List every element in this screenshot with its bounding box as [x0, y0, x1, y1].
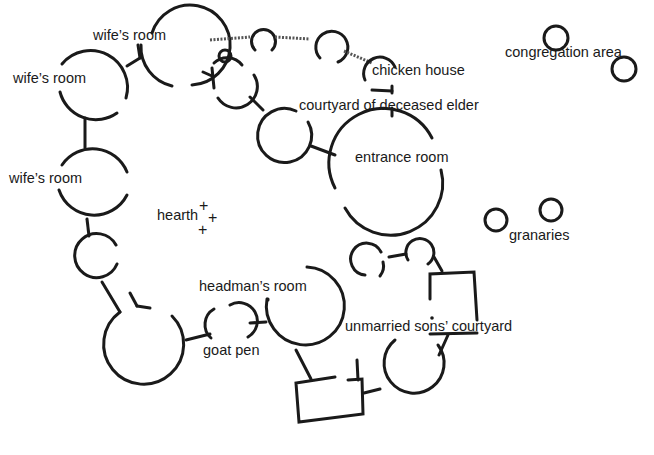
label-headmans-room: headman’s room — [199, 278, 307, 294]
label-unmarried-sons-courtyard: unmarried sons’ courtyard — [345, 318, 512, 334]
hearth-markers: + + + — [198, 197, 217, 238]
svg-text:+: + — [208, 209, 217, 226]
label-hearth: hearth — [157, 207, 198, 223]
label-entrance-room: entrance room — [355, 149, 449, 165]
label-wife-room-left: wife’s room — [12, 70, 86, 86]
svg-text:+: + — [199, 197, 208, 214]
granary-2 — [540, 199, 562, 221]
label-wife-room-top: wife’s room — [92, 27, 166, 43]
svg-text:+: + — [198, 221, 207, 238]
label-wife-room-middle: wife’s room — [8, 170, 82, 186]
label-congregation-area: congregation area — [505, 44, 623, 60]
hut-top-1 — [252, 30, 276, 50]
congregation-circle-2 — [612, 57, 636, 81]
small-room-upper — [203, 58, 263, 110]
small-room-left — [75, 234, 117, 278]
hut-top-2 — [316, 31, 348, 62]
goat-pen — [205, 303, 257, 338]
wife-room-top — [141, 5, 230, 86]
label-chicken-house: chicken house — [372, 62, 465, 78]
label-goat-pen: goat pen — [203, 342, 259, 358]
round-room-bottom — [384, 340, 444, 393]
label-granaries: granaries — [509, 227, 569, 243]
compound-floor-plan: + + + wife’s room wife’s room wife’s roo… — [0, 0, 654, 455]
label-courtyard-deceased-elder: courtyard of deceased elder — [299, 97, 479, 113]
twin-rooms — [351, 239, 434, 276]
courtyard-of-deceased-elder — [258, 108, 312, 162]
entrance-room — [329, 108, 443, 235]
granary-1 — [485, 209, 507, 231]
